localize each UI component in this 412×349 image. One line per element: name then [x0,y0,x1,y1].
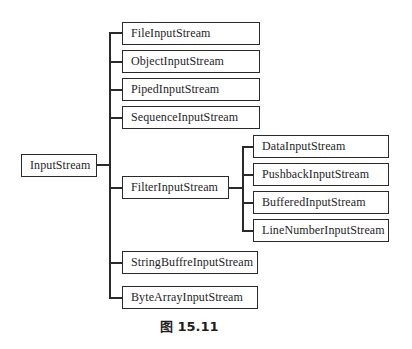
connector [109,262,122,264]
node-pipedinputstream: PipedInputStream [122,78,260,101]
connector [97,164,109,166]
connector [109,89,122,91]
node-stringbuffreinputstream: StringBuffreInputStream [122,251,258,274]
connector [109,187,122,189]
connector [242,174,253,176]
connector [109,32,122,34]
node-datainputstream: DataInputStream [253,135,389,158]
connector [109,117,122,119]
node-pushbackinputstream: PushbackInputStream [253,163,389,186]
connector [229,187,242,189]
node-bytearrayinputstream: ByteArrayInputStream [122,286,258,309]
node-linenumberinputstream: LineNumberInputStream [253,219,389,242]
connector [242,202,253,204]
node-sequenceinputstream: SequenceInputStream [122,106,260,129]
node-fileinputstream: FileInputStream [122,22,260,45]
trunk-line [109,32,111,298]
connector [109,61,122,63]
connector [242,146,253,148]
connector [242,230,253,232]
connector [109,297,122,299]
node-objectinputstream: ObjectInputStream [122,50,260,73]
node-filterinputstream: FilterInputStream [122,176,229,199]
node-bufferedinputstream: BufferedInputStream [253,191,389,214]
node-inputstream: InputStream [21,154,97,177]
figure-caption: 图 15.11 [160,316,219,335]
sub-trunk-line [242,146,244,230]
